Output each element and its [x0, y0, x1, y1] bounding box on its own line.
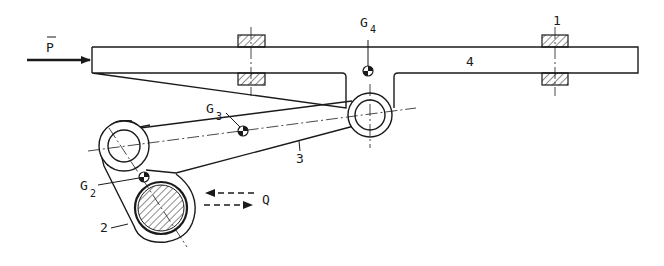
center-of-mass-g4: [363, 66, 373, 76]
bearing-right: [542, 27, 568, 96]
force-label-p: P: [46, 37, 56, 55]
svg-text:2: 2: [90, 188, 96, 199]
svg-text:3: 3: [296, 151, 304, 166]
output-force-arrows: [204, 193, 254, 205]
center-of-mass-g3: [238, 126, 248, 136]
svg-text:3: 3: [216, 111, 222, 122]
label-g3: G 3: [206, 101, 240, 127]
part-label-3: 3: [296, 141, 304, 166]
bearing-left: [238, 27, 265, 96]
part-label-1: 1: [553, 13, 561, 28]
label-g2: G 2: [80, 178, 139, 199]
force-label-q: Q: [262, 192, 270, 207]
svg-text:G: G: [360, 15, 368, 30]
center-of-mass-g2: [139, 172, 149, 182]
svg-text:P: P: [46, 40, 54, 55]
label-g4: G 4: [360, 15, 376, 66]
svg-text:2: 2: [100, 220, 108, 235]
part-label-2: 2: [100, 220, 128, 235]
part-label-4: 4: [466, 54, 474, 69]
svg-text:G: G: [206, 101, 214, 116]
svg-text:4: 4: [370, 24, 376, 35]
svg-text:G: G: [80, 178, 88, 193]
linkage-diagram: P 1 4: [0, 0, 664, 266]
